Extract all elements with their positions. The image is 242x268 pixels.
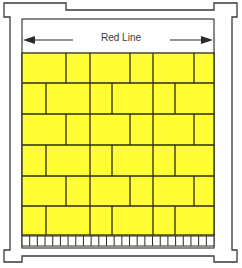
- tile-layout-diagram: Red Line: [0, 0, 242, 268]
- tile-field: [22, 53, 214, 235]
- ruler-strip: [22, 236, 214, 246]
- red-line-label: Red Line: [0, 32, 242, 43]
